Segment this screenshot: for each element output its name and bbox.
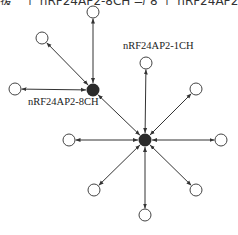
network-diagram bbox=[0, 0, 238, 235]
hub-8ch-label: nRF24AP2-8CH bbox=[28, 96, 99, 107]
slave-node-circle bbox=[87, 6, 99, 18]
bidirectional-arrow bbox=[150, 145, 191, 186]
slave-node-circle bbox=[190, 83, 202, 95]
bidirectional-arrow bbox=[145, 69, 146, 133]
slave-node-circle bbox=[36, 32, 48, 44]
slave-node-circle bbox=[215, 134, 227, 146]
hub-1ch-node bbox=[139, 134, 152, 147]
bidirectional-arrow bbox=[150, 94, 191, 135]
slave-node-circle bbox=[140, 57, 152, 69]
slave-node-circle bbox=[190, 184, 202, 196]
slave-node-circle bbox=[139, 209, 151, 221]
bidirectional-arrow bbox=[98, 95, 140, 135]
hub-8ch-node bbox=[87, 84, 100, 97]
hub-1ch-label: nRF24AP2-1CH bbox=[123, 40, 194, 51]
slave-node-circle bbox=[9, 83, 21, 95]
bidirectional-arrow bbox=[99, 145, 140, 186]
slave-node-circle bbox=[63, 134, 75, 146]
bidirectional-arrow bbox=[47, 43, 89, 85]
slave-node-circle bbox=[88, 184, 100, 196]
bidirectional-arrow bbox=[21, 89, 86, 90]
